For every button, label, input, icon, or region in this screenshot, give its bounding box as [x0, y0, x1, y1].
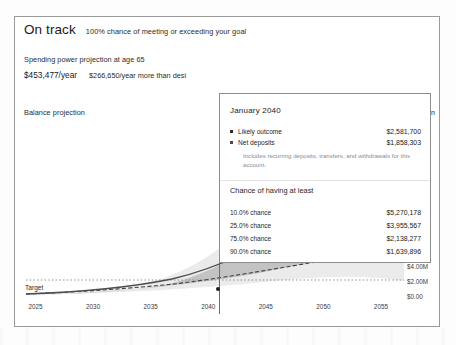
tooltip-chance-row: 25.0% chance $3,955,567 — [230, 219, 421, 232]
y-axis-tick: $0.00 — [407, 293, 423, 300]
series-bullet-icon — [230, 130, 233, 133]
x-axis-tick: 2050 — [316, 303, 330, 310]
tooltip-chance-row: 90.0% chance $1,639,896 — [230, 245, 421, 258]
x-axis-tick: 2030 — [86, 303, 100, 310]
tooltip-series-rows: Likely outcome $2,581,700 Net deposits $… — [230, 126, 421, 148]
spending-power-label: Spending power projection at age 65 — [24, 55, 145, 64]
screenshot-root: On track 100% chance of meeting or excee… — [0, 0, 456, 345]
spending-power-primary: $453,477/year — [24, 70, 77, 80]
spending-power-secondary: $266,650/year more than desi — [89, 71, 186, 80]
target-line-label: Target — [25, 284, 43, 291]
tooltip-title: January 2040 — [230, 106, 281, 115]
tooltip-subheading: Chance of having at least — [230, 186, 313, 195]
series-bullet-icon — [230, 141, 233, 144]
tooltip-note: Includes recurring deposits, transfers, … — [243, 151, 413, 170]
tooltip-row: Likely outcome $2,581,700 — [230, 126, 421, 137]
x-axis-tick: 2035 — [144, 303, 158, 310]
chance-value: $5,270,178 — [387, 209, 422, 216]
chance-label: 10.0% chance — [230, 209, 271, 216]
chance-value: $2,138,277 — [387, 235, 422, 242]
chance-value: $1,639,896 — [387, 248, 422, 255]
tooltip-series-value: $2,581,700 — [387, 128, 422, 135]
balance-projection-label: Balance projection — [24, 108, 85, 117]
tooltip-series-name: Likely outcome — [238, 128, 282, 135]
tooltip-chance-row: 10.0% chance $5,270,178 — [230, 206, 421, 219]
chance-label: 25.0% chance — [230, 222, 271, 229]
chart-hover-point — [216, 287, 220, 291]
tooltip-series-value: $1,858,303 — [387, 139, 422, 146]
chance-label: 90.0% chance — [230, 248, 271, 255]
x-axis-tick: 2045 — [259, 303, 273, 310]
page-texture — [0, 327, 456, 345]
y-axis-tick: $4.00M — [407, 262, 428, 269]
x-axis: 2025203020352040204520502055 — [24, 303, 404, 317]
tooltip-row: Net deposits $1,858,303 — [230, 137, 421, 148]
x-axis-tick: 2055 — [374, 303, 388, 310]
chance-value: $3,955,567 — [387, 222, 422, 229]
tooltip-series-name: Net deposits — [238, 139, 275, 146]
status-subtitle: 100% chance of meeting or exceeding your… — [86, 27, 246, 36]
tooltip-chance-rows: 10.0% chance $5,270,178 25.0% chance $3,… — [230, 206, 421, 258]
chance-label: 75.0% chance — [230, 235, 271, 242]
x-axis-tick: 2040 — [201, 303, 215, 310]
tooltip-divider — [220, 180, 430, 181]
status-header: On track 100% chance of meeting or excee… — [24, 22, 246, 37]
y-axis-tick: $2.00M — [407, 277, 428, 284]
chart-tooltip: January 2040 Likely outcome $2,581,700 N… — [219, 93, 431, 263]
spending-power-values: $453,477/year $266,650/year more than de… — [24, 70, 186, 80]
tooltip-chance-row: 75.0% chance $2,138,277 — [230, 232, 421, 245]
status-title: On track — [24, 22, 76, 37]
x-axis-tick: 2025 — [28, 303, 42, 310]
projection-card: On track 100% chance of meeting or excee… — [14, 16, 440, 327]
